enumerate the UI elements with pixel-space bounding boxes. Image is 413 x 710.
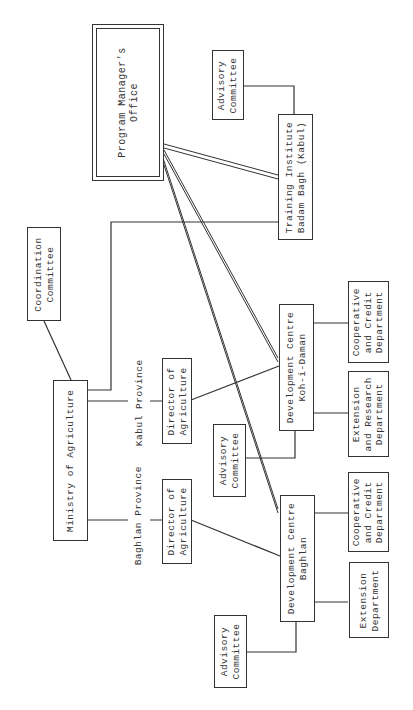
training-institute-label: Training Institute Badam Bagh (Kabul) — [284, 121, 307, 233]
ministry-of-agriculture-label: Ministry of Agriculture — [65, 389, 77, 532]
baghlan-province-label: Baghlan Province — [133, 466, 145, 565]
cooperative-credit-baghlan-box: Cooperative and Credit Department — [348, 472, 389, 552]
ministry-of-agriculture-box: Ministry of Agriculture — [53, 380, 88, 541]
extension-baghlan-box: Extension Department — [349, 562, 389, 638]
extension-research-koh-box: Extension and Research Department — [348, 371, 389, 457]
baghlan-province-label-wrap: Baghlan Province — [128, 472, 150, 560]
director-kabul-label: Director of Agriculture — [166, 367, 189, 435]
kabul-province-label: Kabul Province — [133, 359, 145, 446]
director-of-agriculture-kabul-box: Director of Agriculture — [162, 358, 192, 444]
ext-research-koh-label: Extension and Research Department — [351, 377, 386, 451]
advisory-committee-baghlan-box: Advisory Committee — [214, 615, 247, 688]
coordination-committee-label: Coordination Committee — [33, 237, 56, 311]
director-baghlan-label: Director of Agriculture — [166, 487, 189, 555]
training-institute-box: Training Institute Badam Bagh (Kabul) — [278, 114, 313, 240]
cooperative-credit-koh-box: Cooperative and Credit Department — [348, 281, 389, 363]
advisory-committee-koh-box: Advisory Committee — [213, 424, 246, 497]
development-centre-koh-i-daman-box: Development Centre Koh-i-Daman — [279, 304, 314, 431]
dc-koh-label: Development Centre Koh-i-Daman — [285, 312, 308, 424]
coordination-committee-box: Coordination Committee — [27, 227, 61, 321]
program-managers-office-box: Program Manager's Office — [92, 24, 164, 181]
ext-baghlan-label: Extension Department — [358, 569, 381, 631]
advisory-committee-training-box: Advisory Committee — [212, 50, 244, 120]
development-centre-baghlan-box: Development Centre Baghlan — [280, 495, 315, 622]
program-managers-office-label: Program Manager's Office — [117, 47, 140, 158]
advisory-committee-training-label: Advisory Committee — [217, 57, 240, 113]
advisory-koh-label: Advisory Committee — [218, 433, 241, 489]
kabul-province-label-wrap: Kabul Province — [128, 365, 150, 440]
dc-baghlan-label: Development Centre Baghlan — [286, 503, 309, 615]
director-of-agriculture-baghlan-box: Director of Agriculture — [162, 479, 192, 564]
coop-baghlan-label: Cooperative and Credit Department — [351, 478, 386, 546]
advisory-baghlan-label: Advisory Committee — [219, 624, 242, 680]
coop-koh-label: Cooperative and Credit Department — [351, 288, 386, 356]
